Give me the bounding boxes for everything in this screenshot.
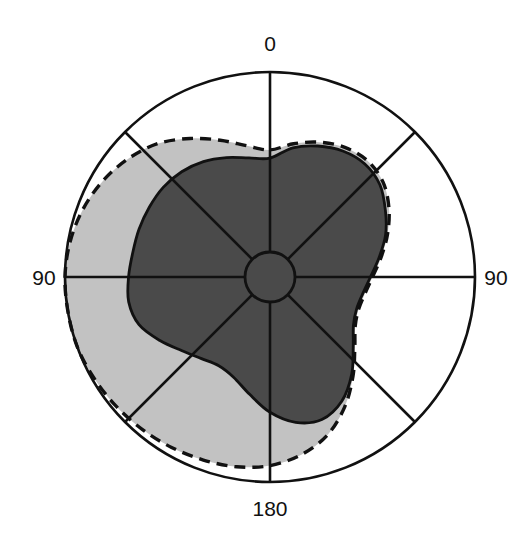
polar-plot: 0 90 90 180 — [0, 0, 526, 537]
axis-label-right: 90 — [484, 266, 507, 289]
axis-label-left: 90 — [32, 266, 55, 289]
axis-label-top: 0 — [264, 32, 276, 55]
polar-chart-container: 0 90 90 180 — [0, 0, 526, 537]
axis-label-bottom: 180 — [252, 497, 287, 520]
